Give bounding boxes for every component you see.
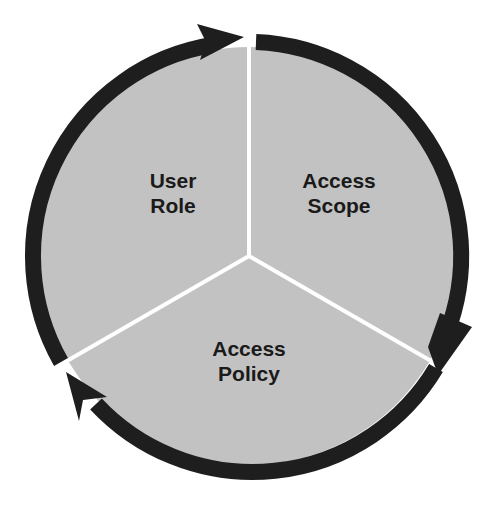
label-line: Access <box>279 168 399 193</box>
label-line: Role <box>113 193 233 218</box>
cycle-diagram <box>0 0 499 508</box>
segment-label-user-role: User Role <box>113 168 233 218</box>
segment-label-access-scope: Access Scope <box>279 168 399 218</box>
label-line: Access <box>189 336 309 361</box>
segment-label-access-policy: Access Policy <box>189 336 309 386</box>
label-line: User <box>113 168 233 193</box>
label-line: Scope <box>279 193 399 218</box>
label-line: Policy <box>189 361 309 386</box>
